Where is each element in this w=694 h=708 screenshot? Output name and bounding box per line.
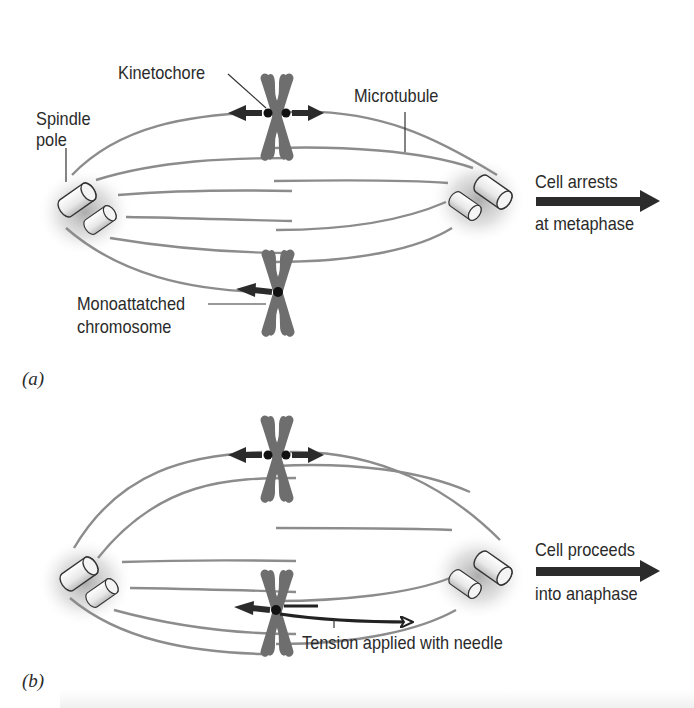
panel-b [37,416,660,656]
proceed-label-line2: into anaphase [535,583,638,605]
arrest-label-line2: at metaphase [535,213,634,235]
spindle-pole-label-line2: pole [36,129,67,151]
monoattached-label-line1: Monoattatched [77,293,185,315]
page-edge-shade [60,690,694,708]
bioriented-chromosome-b [228,416,324,502]
proceed-arrow [536,560,660,582]
tension-arrow [280,614,412,622]
arrest-arrow [536,190,660,212]
arrest-label-line1: Cell arrests [535,171,618,193]
microtubule-label: Microtubule [354,85,438,107]
monoattached-label-line2: chromosome [77,316,171,338]
panel-b-label: (b) [22,670,44,692]
kinetochore-label: Kinetochore [118,62,205,84]
panel-a-label: (a) [22,368,44,390]
spindle-pole-label-line1: Spindle [36,108,91,130]
needle-label: Tension applied with needle [302,632,503,654]
proceed-label-line1: Cell proceeds [535,539,635,561]
monoattached-chromosome [236,250,290,336]
